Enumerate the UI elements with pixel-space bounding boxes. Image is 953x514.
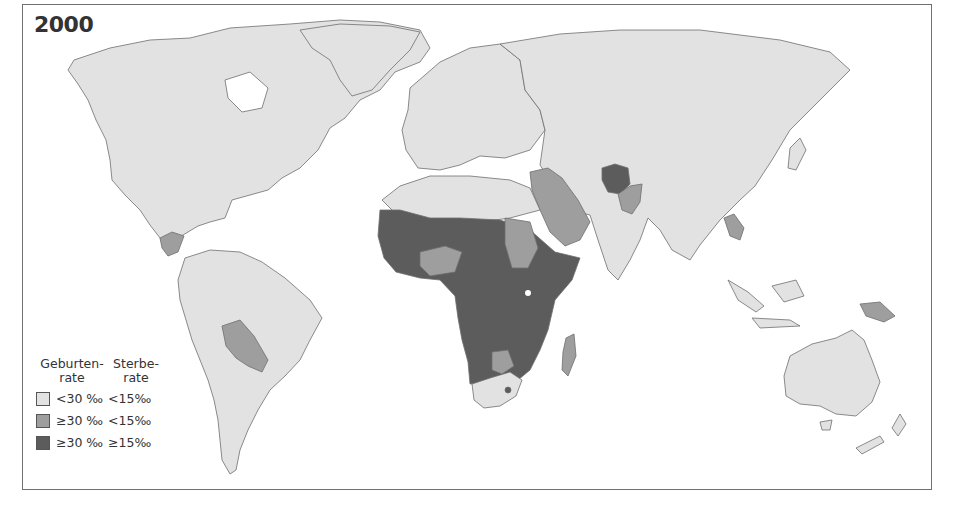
legend-birth-medium: ≥30 ‰ [56, 414, 108, 428]
legend-birth-low: <30 ‰ [56, 392, 108, 406]
region-new-zealand [856, 436, 884, 454]
legend-birth-high: ≥30 ‰ [56, 436, 108, 450]
legend-swatch-low [36, 392, 50, 406]
legend-swatch-high [36, 436, 50, 450]
region-indonesia [728, 280, 764, 312]
legend-swatch-medium [36, 414, 50, 428]
legend: Geburten- rate Sterbe- rate <30 ‰ <15‰ ≥… [36, 357, 162, 452]
legend-header-death-line1: Sterbe- [110, 357, 162, 371]
legend-header-birth-line2: rate [36, 371, 108, 385]
legend-death-low: <15‰ [108, 392, 160, 406]
region-japan [788, 138, 806, 170]
region-papua-medium [860, 302, 895, 322]
legend-death-medium: <15‰ [108, 414, 160, 428]
legend-header-death-rate: Sterbe- rate [110, 357, 162, 386]
region-madagascar-medium [562, 334, 576, 376]
legend-row-low: <30 ‰ <15‰ [36, 390, 162, 408]
region-laos-medium [724, 214, 744, 240]
legend-header-birth-rate: Geburten- rate [36, 357, 108, 386]
legend-row-high: ≥30 ‰ ≥15‰ [36, 434, 162, 452]
legend-header-death-line2: rate [110, 371, 162, 385]
legend-header: Geburten- rate Sterbe- rate [36, 357, 162, 386]
legend-header-birth-line1: Geburten- [36, 357, 108, 371]
region-sub-saharan-africa-high [378, 210, 580, 384]
legend-row-medium: ≥30 ‰ <15‰ [36, 412, 162, 430]
map-title: 2000 [34, 12, 93, 37]
region-australia [784, 330, 880, 416]
legend-death-high: ≥15‰ [108, 436, 160, 450]
